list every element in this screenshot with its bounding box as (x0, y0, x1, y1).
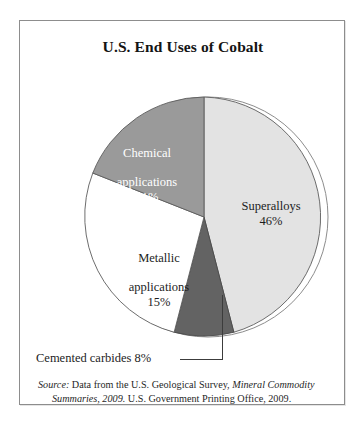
source-text-2: U.S. Government Printing Office, 2009. (125, 393, 291, 404)
figure-frame: U.S. End Uses of Cobalt Chemical applica… (19, 20, 345, 405)
pie-callout-label-cemented-carbides: Cemented carbides 8% (36, 351, 151, 366)
pie-label-metallic-line2: applications (129, 280, 189, 294)
pie-label-chemical-applications: Chemical applications 31% (93, 131, 201, 220)
pie-value-chemical-applications: 31% (93, 190, 201, 205)
pie-label-metallic-applications: Metallic applications 15% (106, 236, 212, 325)
source-label: Source: (38, 379, 69, 390)
source-note: Source: Data from the U.S. Geological Su… (38, 378, 334, 407)
source-line-2: Summaries, 2009. U.S. Government Printin… (38, 392, 334, 406)
source-italic-2: Summaries, 2009. (52, 393, 125, 404)
pie-label-chemical-line1: Chemical (123, 146, 171, 160)
source-italic-1: Mineral Commodity (232, 379, 314, 390)
pie-value-metallic-applications: 15% (106, 295, 212, 310)
pie-label-superalloys-text: Superalloys (241, 199, 300, 213)
source-text-1: Data from the U.S. Geological Survey, (69, 379, 232, 390)
callout-leader-line-horizontal (180, 359, 223, 360)
callout-leader-line-vertical (222, 295, 223, 360)
pie-label-chemical-line2: applications (117, 175, 177, 189)
pie-label-superalloys: Superalloys 46% (216, 184, 326, 243)
pie-value-superalloys: 46% (216, 214, 326, 229)
pie-label-metallic-line1: Metallic (138, 251, 180, 265)
